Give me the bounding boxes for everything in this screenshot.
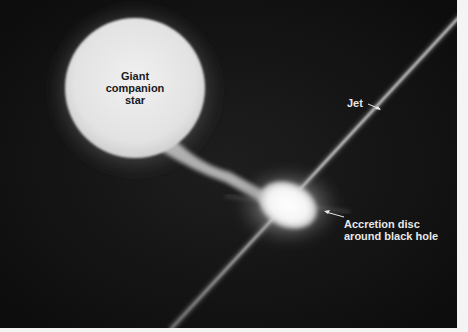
disc-label: Accretion disc around black hole xyxy=(344,218,438,242)
star-label-line: star xyxy=(85,94,185,106)
disc-label-line: Accretion disc xyxy=(344,218,438,230)
star-label: Giant companion star xyxy=(85,70,185,106)
star-label-line: companion xyxy=(85,82,185,94)
star-label-line: Giant xyxy=(85,70,185,82)
jet-label: Jet xyxy=(347,97,363,109)
astronomy-illustration: Giant companion star Jet Accretion disc … xyxy=(0,0,457,328)
disc-label-line: around black hole xyxy=(344,230,438,242)
scene-graphic xyxy=(0,0,457,328)
